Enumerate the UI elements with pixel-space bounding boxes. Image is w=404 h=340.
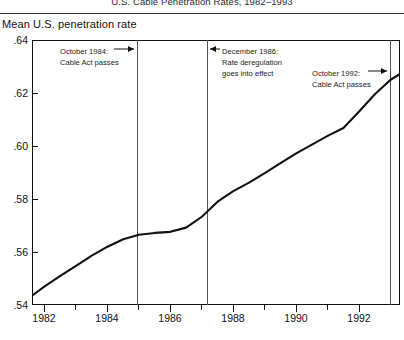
x-tick-mark <box>107 305 108 312</box>
x-tick-minor <box>138 305 139 310</box>
x-tick-label: 1984 <box>87 313 127 324</box>
x-tick-label: 1988 <box>213 313 253 324</box>
x-tick-minor <box>201 305 202 310</box>
event-line-dec-1986 <box>207 40 208 305</box>
y-tick-label: .64 <box>13 35 28 46</box>
y-tick-label: .62 <box>13 88 28 99</box>
event-line-oct-1984 <box>137 40 138 305</box>
event-line-oct-1992 <box>390 40 391 305</box>
figure-title: U.S. Cable Penetration Rates, 1982–1993 <box>0 0 404 7</box>
y-axis-caption: Mean U.S. penetration rate <box>2 18 137 30</box>
annotation-line: Rate deregulation <box>222 57 282 68</box>
x-tick-mark <box>359 305 360 312</box>
annotation-line: goes into effect <box>222 68 282 79</box>
annotation-line: December 1986: <box>222 46 282 57</box>
annotation-oct-1984: October 1984: Cable Act passes <box>60 46 119 68</box>
chart-figure: U.S. Cable Penetration Rates, 1982–1993 … <box>0 0 404 340</box>
annotation-line: October 1992: <box>312 68 371 79</box>
x-tick-label: 1986 <box>150 313 190 324</box>
annotation-line: Cable Act passes <box>312 79 371 90</box>
annotation-dec-1986: December 1986: Rate deregulation goes in… <box>222 46 282 79</box>
x-tick-minor <box>75 305 76 310</box>
annotation-oct-1992: October 1992: Cable Act passes <box>312 68 371 90</box>
y-tick-label: .54 <box>13 300 28 311</box>
x-tick-mark <box>170 305 171 312</box>
x-tick-mark <box>296 305 297 312</box>
x-tick-minor <box>264 305 265 310</box>
x-tick-label: 1982 <box>24 313 64 324</box>
x-tick-mark <box>44 305 45 312</box>
y-tick-label: .60 <box>13 141 28 152</box>
x-tick-minor <box>327 305 328 310</box>
x-tick-label: 1990 <box>276 313 316 324</box>
x-tick-label: 1992 <box>339 313 379 324</box>
annotation-line: October 1984: <box>60 46 119 57</box>
header-divider <box>0 13 404 14</box>
annotation-line: Cable Act passes <box>60 57 119 68</box>
y-tick-label: .56 <box>13 247 28 258</box>
y-tick-label: .58 <box>13 194 28 205</box>
x-tick-mark <box>233 305 234 312</box>
